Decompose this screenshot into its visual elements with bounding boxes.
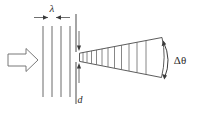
- wavelength-arrowhead-left: [56, 15, 61, 19]
- angular-spread-arc: Δθ: [162, 41, 187, 80]
- slit-width-dimension: d: [77, 31, 84, 105]
- plane-wavefront-lines: [43, 26, 70, 97]
- cone-wavefront-ribs: [83, 41, 146, 75]
- diffraction-diagram-svg: λ d: [0, 0, 202, 116]
- angle-arc-arrowhead-bottom: [162, 74, 167, 80]
- slit-arrowhead-up: [77, 63, 81, 69]
- incoming-beam-arrow-icon: [8, 49, 38, 72]
- angular-spread-label: Δθ: [174, 54, 186, 66]
- slit-width-label: d: [78, 94, 84, 105]
- wavelength-arrowhead-right: [43, 15, 48, 19]
- wavelength-dimension: λ: [34, 2, 70, 20]
- wavelength-label: λ: [49, 2, 55, 14]
- slit-arrowhead-down: [77, 46, 81, 52]
- diffraction-figure: λ d: [0, 0, 202, 116]
